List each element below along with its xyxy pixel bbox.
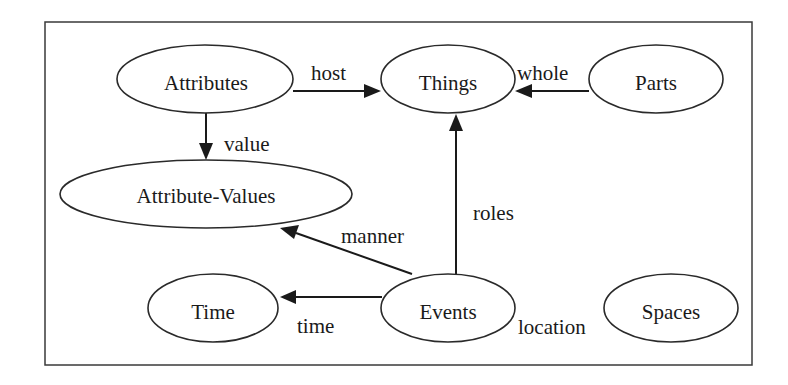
node-things: Things	[381, 45, 515, 113]
node-spaces: Spaces	[604, 274, 738, 342]
node-time: Time	[148, 274, 278, 342]
edge-label-host: host	[311, 61, 346, 85]
ontology-diagram: host whole value roles manner time locat…	[0, 0, 788, 385]
edge-label-location: location	[518, 315, 586, 339]
edge-time: time	[280, 290, 382, 338]
node-events: Events	[381, 274, 515, 342]
edge-value: value	[199, 113, 269, 160]
edge-location: location	[518, 315, 586, 339]
edge-label-time: time	[297, 314, 334, 338]
node-label-attribute-values: Attribute-Values	[137, 184, 276, 208]
edge-host: host	[293, 61, 381, 98]
edge-label-roles: roles	[473, 201, 514, 225]
edge-label-value: value	[224, 132, 269, 156]
node-parts: Parts	[589, 45, 723, 113]
edge-roles: roles	[449, 114, 514, 274]
node-attribute-values: Attribute-Values	[60, 160, 352, 228]
edge-whole: whole	[515, 61, 589, 98]
node-attributes: Attributes	[117, 45, 293, 113]
node-label-things: Things	[419, 71, 477, 95]
edge-label-manner: manner	[341, 224, 404, 248]
node-label-attributes: Attributes	[164, 71, 248, 95]
node-label-parts: Parts	[635, 71, 677, 95]
edge-manner: manner	[280, 224, 412, 274]
node-label-time: Time	[191, 300, 235, 324]
node-label-spaces: Spaces	[642, 300, 700, 324]
edge-label-whole: whole	[517, 61, 568, 85]
node-label-events: Events	[419, 300, 476, 324]
